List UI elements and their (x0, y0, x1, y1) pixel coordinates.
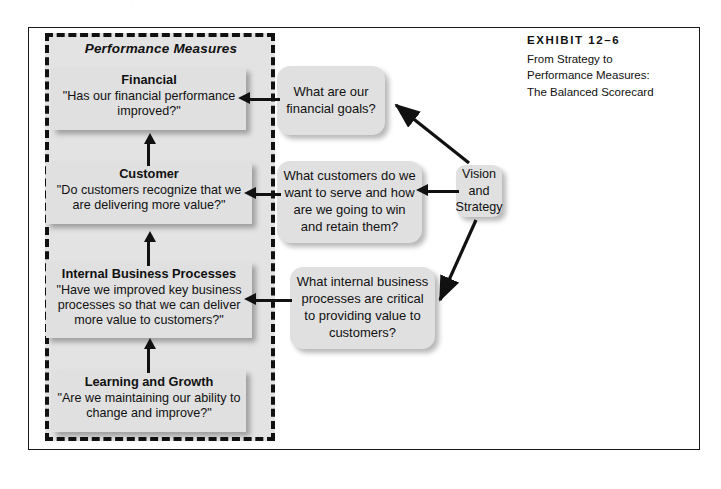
measure-box-internal-business-processes: Internal Business Processes "Have we imp… (46, 262, 252, 338)
exhibit-caption-line-2: Performance Measures: (527, 67, 687, 84)
vision-and-strategy-box: Vision and Strategy (456, 165, 502, 217)
measure-heading-financial: Financial (52, 72, 246, 88)
question-bubble-internal-processes: What internal business processes are cri… (290, 267, 435, 349)
measure-heading-internal-business-processes: Internal Business Processes (46, 266, 252, 282)
measure-box-learning-and-growth: Learning and Growth "Are we maintaining … (52, 370, 246, 432)
exhibit-caption-line-1: From Strategy to (527, 51, 687, 68)
page-ghost-text: · · · (110, 0, 610, 9)
question-bubble-customers-serve: What customers do we want to serve and h… (277, 161, 422, 243)
question-text-internal-processes: What internal business processes are cri… (296, 274, 429, 342)
measure-question-financial: "Has our financial performance improved?… (52, 89, 246, 120)
measure-heading-learning-and-growth: Learning and Growth (52, 374, 246, 390)
question-text-customers-serve: What customers do we want to serve and h… (283, 168, 416, 236)
performance-measures-title: Performance Measures (55, 41, 267, 56)
vision-and-strategy-label: Vision and Strategy (456, 166, 503, 215)
measure-heading-customer: Customer (46, 166, 252, 182)
exhibit-stage: · · · Performance Measures Financial "Ha… (0, 0, 721, 489)
exhibit-number: EXHIBIT 12–6 (527, 32, 687, 49)
exhibit-caption-line-3: The Balanced Scorecard (527, 84, 687, 101)
question-text-financial-goals: What are our financial goals? (283, 84, 379, 118)
measure-question-learning-and-growth: "Are we maintaining our ability to chang… (52, 391, 246, 422)
exhibit-caption: EXHIBIT 12–6 From Strategy to Performanc… (527, 32, 687, 101)
measure-box-financial: Financial "Has our financial performance… (52, 68, 246, 130)
measure-question-customer: "Do customers recognize that we are deli… (46, 183, 252, 214)
measure-box-customer: Customer "Do customers recognize that we… (46, 162, 252, 224)
measure-question-internal-business-processes: "Have we improved key business processes… (46, 283, 252, 329)
question-bubble-financial-goals: What are our financial goals? (277, 66, 385, 135)
